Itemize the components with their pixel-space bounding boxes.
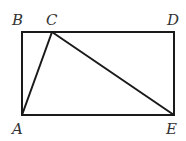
label-c: C	[46, 11, 58, 29]
label-e: E	[165, 120, 177, 138]
geometry-diagram: B C D A E	[0, 0, 186, 141]
segment-ac	[22, 32, 52, 115]
label-b: B	[11, 11, 23, 29]
label-d: D	[166, 11, 179, 29]
rectangle-abde	[22, 32, 174, 115]
segment-ce	[52, 32, 174, 115]
label-a: A	[10, 120, 23, 138]
